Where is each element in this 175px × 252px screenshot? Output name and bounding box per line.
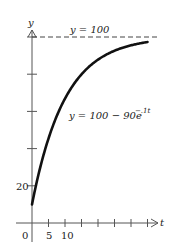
asymptote-label: y = 100 (69, 24, 110, 35)
data-curve (32, 42, 148, 204)
origin-label: 0 (22, 230, 28, 241)
t-tick-label-5: 5 (46, 230, 52, 241)
y-axis-label: y (27, 17, 34, 28)
y-tick-label-20: 20 (16, 181, 29, 192)
curve-equation-label: y = 100 − 90e (68, 110, 142, 121)
axes (16, 30, 158, 242)
t-axis-label: t (160, 217, 165, 228)
t-tick-label-10: 10 (61, 230, 74, 241)
exponential-growth-chart: y t 0 5 10 20 y = 100 y = 100 − 90e −.1t (0, 0, 175, 252)
curve-equation-exponent: −.1t (135, 107, 151, 115)
